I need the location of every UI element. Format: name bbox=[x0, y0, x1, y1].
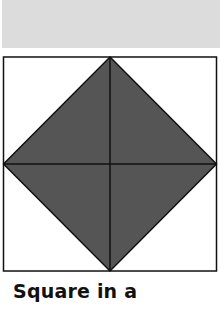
caption-title: Square in a bbox=[13, 280, 137, 302]
square-in-square-figure bbox=[0, 52, 224, 276]
header-band bbox=[2, 0, 220, 48]
